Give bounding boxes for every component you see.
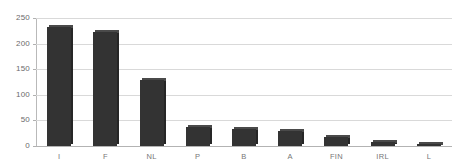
- bar: [324, 137, 348, 146]
- bar: [140, 80, 164, 146]
- y-axis-tick-mark: [33, 69, 36, 70]
- x-axis-tick-label: FIN: [316, 152, 356, 161]
- bar-front-face: [417, 144, 441, 146]
- y-axis-tick-mark: [33, 120, 36, 121]
- bar-front-face: [324, 137, 348, 146]
- x-axis-tick-label: IRL: [363, 152, 403, 161]
- bar: [93, 32, 117, 146]
- y-axis-tick-label: 0: [0, 141, 30, 150]
- y-axis-tick-mark: [33, 146, 36, 147]
- bar-front-face: [93, 32, 117, 146]
- y-axis-tick-mark: [33, 44, 36, 45]
- y-axis-tick-label: 150: [0, 64, 30, 73]
- bar: [232, 129, 256, 146]
- bar-front-face: [140, 80, 164, 146]
- bar-side-face: [117, 30, 119, 144]
- bar: [47, 27, 71, 146]
- bar-front-face: [232, 129, 256, 146]
- y-axis-tick-label: 100: [0, 90, 30, 99]
- y-axis-tick-mark: [33, 18, 36, 19]
- bar-front-face: [278, 131, 302, 146]
- bar-side-face: [164, 78, 166, 144]
- x-axis-tick-label: A: [270, 152, 310, 161]
- y-axis-tick-label: 50: [0, 115, 30, 124]
- bar-side-face: [71, 25, 73, 144]
- x-axis-tick-label: NL: [132, 152, 172, 161]
- bar: [371, 142, 395, 146]
- x-axis-tick-label: P: [178, 152, 218, 161]
- y-axis-tick-mark: [33, 95, 36, 96]
- x-axis-tick-label: B: [224, 152, 264, 161]
- bars-layer: [36, 18, 452, 146]
- y-axis-tick-label: 250: [0, 13, 30, 22]
- bar-front-face: [186, 127, 210, 146]
- plot-area: [36, 18, 452, 146]
- x-axis-tick-label: F: [85, 152, 125, 161]
- bar: [278, 131, 302, 146]
- bar: [417, 144, 441, 146]
- bar-chart: 050100150200250 IFNLPBAFINIRLL: [0, 0, 458, 168]
- y-axis-tick-label: 200: [0, 39, 30, 48]
- bar: [186, 127, 210, 146]
- x-axis-tick-label: L: [409, 152, 449, 161]
- gridline: [36, 146, 452, 147]
- x-axis-tick-label: I: [39, 152, 79, 161]
- bar-front-face: [47, 27, 71, 146]
- bar-front-face: [371, 142, 395, 146]
